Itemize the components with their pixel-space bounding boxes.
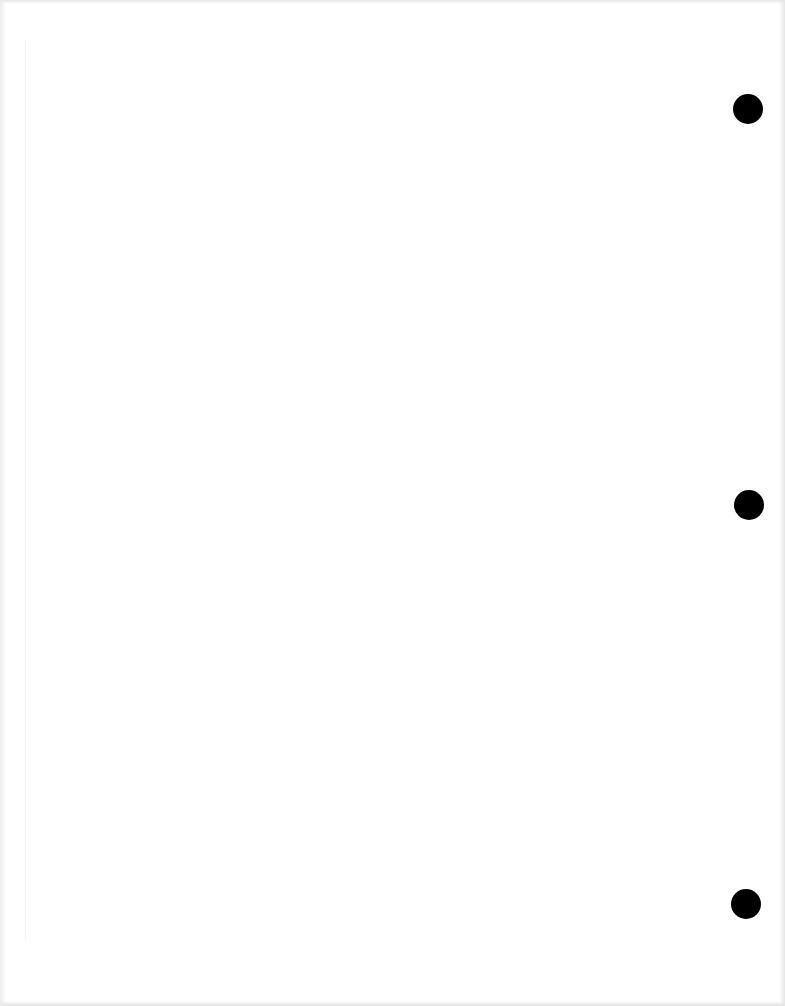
scanned-page — [0, 0, 785, 1006]
page-left-edge — [0, 0, 6, 1006]
page-bottom-edge — [0, 1001, 785, 1006]
page-right-edge — [779, 0, 785, 1006]
faint-fold-line — [25, 40, 26, 940]
punch-hole-icon — [733, 94, 763, 124]
page-top-edge — [0, 0, 785, 4]
punch-hole-icon — [731, 889, 761, 919]
punch-hole-icon — [734, 490, 764, 520]
